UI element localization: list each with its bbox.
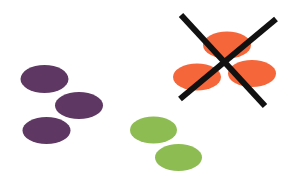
purple-ellipse — [23, 117, 71, 144]
purple-ellipse — [21, 65, 69, 93]
background — [0, 0, 289, 189]
purple-ellipse — [55, 92, 103, 119]
green-ellipse — [130, 117, 177, 144]
green-ellipse — [155, 144, 202, 171]
diagram-canvas — [0, 0, 289, 189]
